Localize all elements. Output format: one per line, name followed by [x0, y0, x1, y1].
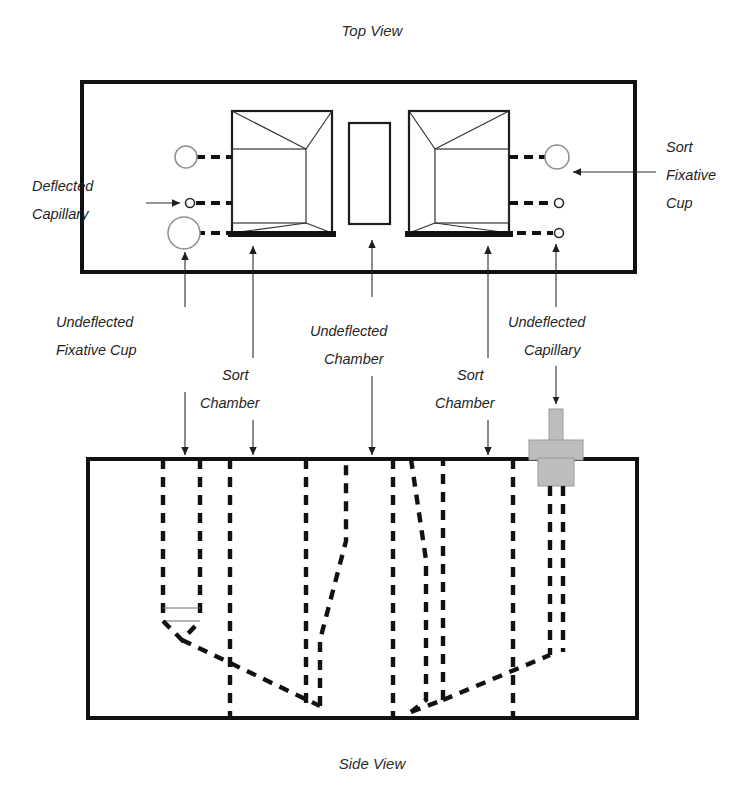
top-view-title: Top View	[342, 22, 404, 39]
undeflected-capillary-port-upper	[555, 199, 564, 208]
deflected-capillary-label-line1: Deflected	[32, 178, 94, 194]
sort-chamber-left-label-line1: Sort	[222, 367, 250, 383]
capillary-flange	[529, 440, 583, 460]
side-view-title: Side View	[339, 755, 407, 772]
sort-fixative-cup-label-line3: Cup	[666, 195, 693, 211]
undeflected-capillary-port-lower	[555, 229, 564, 238]
flow-cytometer-sorter-diagram: Top View	[0, 0, 744, 794]
undeflected-fixative-cup-label-line2: Fixative Cup	[56, 342, 137, 358]
sort-fixative-cup-label-line2: Fixative	[666, 167, 716, 183]
undeflected-fixative-cup-circle	[168, 217, 200, 249]
undeflected-chamber-label-line1: Undeflected	[310, 323, 388, 339]
diagram-canvas: Top View	[0, 0, 744, 794]
sort-fixative-cup-left-circle	[175, 146, 197, 168]
sort-chamber-left-label-line2: Chamber	[200, 395, 261, 411]
sort-fixative-cup-right-circle	[545, 145, 569, 169]
deflected-capillary-label-line2: Capillary	[32, 206, 89, 222]
undeflected-capillary-label-line2: Capillary	[524, 342, 581, 358]
deflected-capillary-port	[186, 199, 195, 208]
sort-fixative-cup-label-line1: Sort	[666, 139, 694, 155]
capillary-block	[538, 458, 574, 486]
undeflected-chamber-label-line2: Chamber	[324, 351, 385, 367]
sort-chamber-right-label-line1: Sort	[457, 367, 485, 383]
undeflected-capillary-label-line1: Undeflected	[508, 314, 586, 330]
undeflected-fixative-cup-label-line1: Undeflected	[56, 314, 134, 330]
sort-chamber-right-label-line2: Chamber	[435, 395, 496, 411]
